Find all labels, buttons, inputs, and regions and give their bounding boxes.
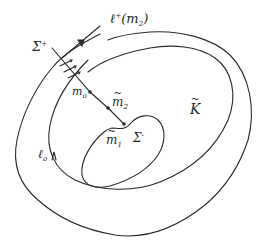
label-m2-tilde: m2 bbox=[112, 96, 128, 111]
transversal-line bbox=[52, 48, 124, 124]
label-k-tilde: K bbox=[190, 102, 200, 116]
label-ell-plus-m2: ℓ+(m2) bbox=[110, 12, 148, 28]
label-sigma-plus: Σ+ bbox=[32, 40, 47, 53]
label-l0: ℓo bbox=[38, 148, 47, 163]
label-m0: mo bbox=[72, 86, 87, 100]
label-m1-tilde: m1 bbox=[106, 134, 122, 149]
label-sigma-minus: Σ- bbox=[133, 132, 144, 144]
middle-curve bbox=[49, 46, 233, 189]
point-m1-tilde bbox=[122, 122, 126, 126]
inner-curve bbox=[82, 116, 164, 188]
sigma-plus-arrows-icon bbox=[60, 60, 80, 78]
diagram-canvas: Σ+ ℓ+(m2) mo m2 m1 Σ- K ℓo bbox=[0, 0, 266, 252]
point-m0 bbox=[88, 90, 92, 94]
point-m2-tilde bbox=[106, 106, 110, 110]
diagram-svg bbox=[0, 0, 266, 252]
